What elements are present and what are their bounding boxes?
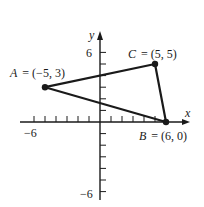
edge-cb xyxy=(155,64,166,122)
x-tick-label-min: −6 xyxy=(24,126,37,140)
point-c-name: C xyxy=(128,47,137,61)
y-axis-label: y xyxy=(88,28,95,42)
point-a-name: A xyxy=(9,66,18,80)
vertex-b xyxy=(163,119,169,125)
x-axis-label: x xyxy=(184,106,191,120)
point-c-value: = (5, 5) xyxy=(141,47,177,61)
edge-ba xyxy=(45,87,166,122)
coordinate-plane-diagram: x y −6 6 −6 A = (−5, 3) C = (5, 5) B = (… xyxy=(0,0,204,207)
vertex-c xyxy=(152,61,158,67)
point-b-value: = (6, 0) xyxy=(151,129,187,143)
y-tick-label-max: 6 xyxy=(86,46,92,60)
y-axis-arrow-icon xyxy=(97,31,103,40)
y-tick-label-min: −6 xyxy=(80,187,93,201)
point-label-c: C = (5, 5) xyxy=(128,47,177,61)
point-b-name: B xyxy=(139,129,147,143)
point-label-a: A = (−5, 3) xyxy=(9,66,65,80)
point-label-b: B = (6, 0) xyxy=(139,129,187,143)
vertex-a xyxy=(42,84,48,90)
point-a-value: = (−5, 3) xyxy=(22,66,65,80)
